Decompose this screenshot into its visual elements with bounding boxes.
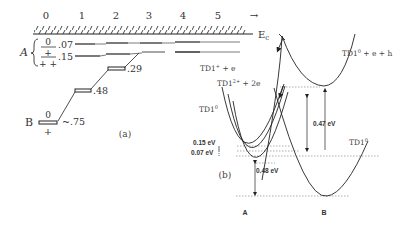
configuration-diagram: 0 1 2 3 4 5 → Ec A 0 + + + .07 .15 .29 .… — [0, 0, 399, 228]
level-value-07: .07 — [58, 39, 73, 50]
group-b-label: B — [25, 116, 33, 129]
label-td1-2plus-2e: TD12+ + 2e — [217, 78, 261, 88]
level-48-bar — [75, 89, 91, 92]
label-td1-0-left: TD10 — [199, 104, 218, 114]
panel-b: TD1+ + e TD12+ + 2e TD10 TD10 + e + h TD… — [191, 34, 393, 216]
energy-label-015: 0.15 eV — [193, 139, 216, 146]
tick-3: 3 — [146, 10, 152, 21]
conduction-band-label: Ec — [258, 29, 269, 42]
label-td1-plus-e: TD1+ + e — [200, 63, 236, 73]
level-07-trace — [75, 42, 240, 44]
tick-2: 2 — [113, 10, 119, 21]
tick-0: 0 — [43, 10, 49, 21]
energy-label-007: 0.07 eV — [191, 149, 214, 156]
charge-0-a: 0 — [45, 37, 51, 47]
energy-label-047: 0.47 eV — [313, 120, 336, 127]
level-value-29: .29 — [127, 63, 142, 74]
charge-0-b: 0 — [45, 110, 51, 120]
curve-td1-0-eh — [282, 34, 355, 86]
level-75-bar — [39, 121, 57, 124]
charge-plus-b: + — [44, 126, 52, 137]
level-29-bar — [108, 67, 125, 70]
config-label-b: B — [321, 209, 326, 216]
charge-plus-a: + — [44, 48, 52, 58]
panel-b-caption: (b) — [219, 170, 232, 180]
axis-arrow-icon: → — [250, 10, 259, 21]
group-a-label: A — [19, 46, 28, 59]
tick-5: 5 — [215, 10, 221, 21]
panel-a-caption: (a) — [119, 129, 131, 139]
label-td1-0-eh: TD10 + e + h — [342, 48, 393, 58]
charge-plusplus-a: + + — [39, 59, 57, 69]
level-value-75: ~.75 — [62, 116, 85, 127]
tick-1: 1 — [79, 10, 85, 21]
transition-arrow-top-icon — [278, 38, 283, 50]
tick-4: 4 — [180, 10, 186, 21]
axis-ticks: 0 1 2 3 4 5 → — [43, 10, 259, 21]
level-15-trace — [75, 52, 240, 56]
group-a-brace — [31, 39, 38, 66]
conduction-band-hatch — [34, 26, 246, 34]
level-value-15: .15 — [58, 51, 73, 62]
panel-a: 0 1 2 3 4 5 → Ec A 0 + + + .07 .15 .29 .… — [19, 10, 269, 139]
config-label-a: A — [242, 209, 247, 216]
level-value-48: .48 — [93, 85, 108, 96]
label-td1-0-right: TD10 — [349, 137, 368, 147]
energy-label-048: 0.48 eV — [256, 167, 279, 174]
curve-left-rise — [262, 36, 282, 180]
